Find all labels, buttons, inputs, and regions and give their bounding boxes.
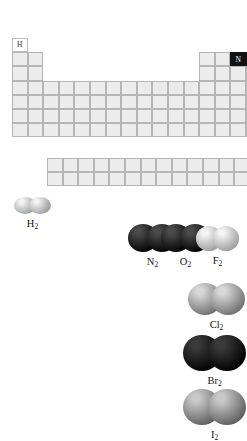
fblock-cell bbox=[172, 158, 188, 172]
element-cell-empty bbox=[246, 81, 247, 95]
element-cell-empty bbox=[28, 81, 44, 95]
molecule-f2: F2 bbox=[196, 226, 239, 251]
fblock-cell bbox=[47, 172, 63, 186]
molecule-label-br2: Br2 bbox=[183, 376, 246, 387]
element-cell-empty bbox=[168, 95, 184, 109]
fblock-cell bbox=[47, 158, 63, 172]
element-cell-empty bbox=[28, 52, 44, 66]
atom-sphere bbox=[208, 389, 246, 425]
atom-sphere bbox=[211, 283, 245, 315]
element-cell-empty bbox=[230, 81, 246, 95]
molecule-spheres-i2 bbox=[183, 389, 246, 425]
element-cell-empty bbox=[12, 123, 28, 137]
element-cell-empty bbox=[184, 81, 200, 95]
element-cell-o: O bbox=[246, 52, 247, 66]
fblock-cell bbox=[156, 172, 172, 186]
fblock-cell bbox=[187, 172, 203, 186]
element-cell-empty bbox=[199, 81, 215, 95]
fblock-cell bbox=[234, 158, 247, 172]
element-cell-empty bbox=[59, 123, 75, 137]
element-cell-empty bbox=[74, 81, 90, 95]
element-cell-empty bbox=[199, 123, 215, 137]
element-cell-empty bbox=[28, 123, 44, 137]
fblock-cell bbox=[63, 158, 79, 172]
element-cell-empty bbox=[59, 95, 75, 109]
element-cell-empty bbox=[43, 109, 59, 123]
element-cell-empty bbox=[168, 81, 184, 95]
fblock-cell bbox=[109, 158, 125, 172]
element-cell-n: N bbox=[230, 52, 246, 66]
element-cell-empty bbox=[215, 123, 231, 137]
element-cell-empty bbox=[184, 123, 200, 137]
element-cell-empty bbox=[74, 109, 90, 123]
element-cell-empty bbox=[59, 81, 75, 95]
element-cell-empty bbox=[121, 109, 137, 123]
element-cell-empty bbox=[215, 81, 231, 95]
molecule-label-i2: I2 bbox=[183, 430, 246, 441]
element-cell-empty bbox=[152, 81, 168, 95]
element-cell-h: H bbox=[12, 38, 28, 52]
element-cell-empty bbox=[199, 66, 215, 80]
periodic-table: HNOFClBrI bbox=[0, 0, 247, 195]
molecule-label-cl2: Cl2 bbox=[188, 320, 245, 331]
element-cell-empty bbox=[74, 123, 90, 137]
element-cell-empty bbox=[230, 66, 246, 80]
element-cell-empty bbox=[28, 95, 44, 109]
element-cell-empty bbox=[184, 95, 200, 109]
fblock-cell bbox=[203, 158, 219, 172]
element-cell-empty bbox=[137, 81, 153, 95]
fblock-cell bbox=[219, 172, 235, 186]
element-cell-empty bbox=[12, 52, 28, 66]
fblock-cell bbox=[172, 172, 188, 186]
molecule-i2: I2 bbox=[183, 389, 246, 425]
element-cell-empty bbox=[199, 109, 215, 123]
element-cell-empty bbox=[137, 109, 153, 123]
fblock-cell bbox=[109, 172, 125, 186]
element-cell-empty bbox=[215, 109, 231, 123]
element-cell-empty bbox=[74, 95, 90, 109]
element-cell-empty bbox=[12, 66, 28, 80]
element-cell-empty bbox=[230, 95, 246, 109]
fblock-cell bbox=[78, 172, 94, 186]
element-cell-empty bbox=[90, 123, 106, 137]
fblock-cell bbox=[94, 172, 110, 186]
fblock-cell bbox=[125, 158, 141, 172]
molecule-label-h2: H2 bbox=[14, 219, 51, 230]
molecule-br2: Br2 bbox=[183, 335, 246, 371]
element-cell-empty bbox=[246, 123, 247, 137]
element-cell-empty bbox=[246, 66, 247, 80]
element-cell-empty bbox=[106, 95, 122, 109]
fblock-cell bbox=[125, 172, 141, 186]
element-cell-empty bbox=[90, 95, 106, 109]
element-cell-empty bbox=[215, 66, 231, 80]
element-cell-empty bbox=[106, 81, 122, 95]
element-cell-empty bbox=[12, 81, 28, 95]
element-cell-empty bbox=[43, 81, 59, 95]
molecule-label-f2: F2 bbox=[196, 256, 239, 267]
element-cell-empty bbox=[59, 109, 75, 123]
element-cell-empty bbox=[12, 95, 28, 109]
element-cell-empty bbox=[199, 95, 215, 109]
element-cell-empty bbox=[90, 109, 106, 123]
element-cell-empty bbox=[246, 109, 247, 123]
element-cell-empty bbox=[106, 123, 122, 137]
molecule-spheres-cl2 bbox=[188, 283, 245, 315]
element-cell-empty bbox=[246, 95, 247, 109]
fblock-cell bbox=[141, 158, 157, 172]
molecule-spheres-br2 bbox=[183, 335, 246, 371]
element-cell-empty bbox=[121, 123, 137, 137]
element-cell-empty bbox=[28, 66, 44, 80]
element-cell-empty bbox=[168, 109, 184, 123]
element-cell-empty bbox=[230, 109, 246, 123]
fblock-cell bbox=[156, 158, 172, 172]
molecule-h2: H2 bbox=[14, 197, 51, 214]
molecule-cl2: Cl2 bbox=[188, 283, 245, 315]
element-cell-empty bbox=[28, 109, 44, 123]
element-cell-empty bbox=[215, 52, 231, 66]
fblock-cell bbox=[203, 172, 219, 186]
element-symbol-n: N bbox=[231, 53, 245, 65]
fblock-cell bbox=[78, 158, 94, 172]
element-cell-empty bbox=[137, 123, 153, 137]
element-cell-empty bbox=[184, 109, 200, 123]
element-cell-empty bbox=[137, 95, 153, 109]
